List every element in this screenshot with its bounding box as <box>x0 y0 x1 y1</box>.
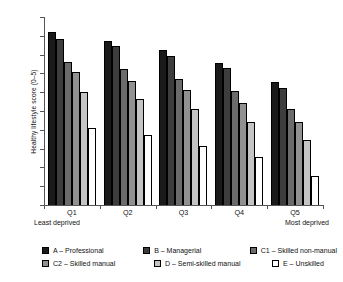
bar <box>80 92 88 205</box>
legend-swatch-icon <box>42 260 49 267</box>
bar <box>112 46 120 205</box>
bar <box>279 88 287 206</box>
legend-swatch-icon <box>272 260 279 267</box>
bar <box>175 79 183 205</box>
bar <box>295 122 303 205</box>
bar <box>271 82 279 205</box>
bar <box>183 90 191 205</box>
bar <box>136 99 144 205</box>
legend-label: B – Managerial <box>154 247 201 254</box>
legend-label: C1 – Skilled non-manual <box>261 247 337 254</box>
bar <box>223 68 231 205</box>
bar <box>239 103 247 205</box>
bar-groups <box>44 17 323 205</box>
legend-row: C2 – Skilled manualD – Semi-skilled manu… <box>42 257 337 270</box>
bar <box>247 122 255 205</box>
bar <box>56 39 64 205</box>
legend-swatch-icon <box>154 260 161 267</box>
legend-item[interactable]: B – Managerial <box>143 247 250 254</box>
bar <box>255 157 263 205</box>
legend-item[interactable]: C1 – Skilled non-manual <box>250 247 337 254</box>
bar <box>48 32 56 205</box>
bar <box>167 56 175 205</box>
healthy-lifestyle-bar-chart: Healthy lifestyle score (0–5) 3.02.92.82… <box>0 0 343 282</box>
legend-swatch-icon <box>250 247 257 254</box>
bar <box>191 109 199 205</box>
bar <box>199 146 207 205</box>
y-axis-title: Healthy lifestyle score (0–5) <box>30 27 37 197</box>
bar <box>311 176 319 205</box>
bar-group <box>156 17 212 205</box>
least-deprived-label: Least deprived <box>34 219 80 226</box>
bar <box>120 69 128 205</box>
x-axis-end-annotations: Least deprived Most deprived <box>44 219 323 231</box>
bar <box>231 91 239 205</box>
legend-label: E – Unskilled <box>283 260 324 267</box>
bar <box>128 81 136 205</box>
bar <box>72 72 80 205</box>
legend-label: D – Semi-skilled manual <box>165 260 240 267</box>
legend-item[interactable]: C2 – Skilled manual <box>42 260 154 267</box>
bar-group <box>44 17 100 205</box>
bar-group <box>100 17 156 205</box>
bar <box>215 63 223 205</box>
bar <box>159 50 167 205</box>
x-axis-line <box>44 205 323 206</box>
bar <box>104 41 112 206</box>
bar <box>144 135 152 205</box>
x-axis-tick <box>323 205 324 209</box>
legend-swatch-icon <box>42 247 49 254</box>
bar <box>88 128 96 205</box>
bar <box>303 140 311 205</box>
legend-label: C2 – Skilled manual <box>53 260 115 267</box>
most-deprived-label: Most deprived <box>285 219 329 226</box>
legend-row: A – ProfessionalB – ManagerialC1 – Skill… <box>42 244 337 257</box>
plot-area: 3.02.92.82.72.62.52.42.32.22.12.0 <box>44 17 323 205</box>
bar <box>287 109 295 205</box>
bar <box>64 62 72 205</box>
bar-group <box>267 17 323 205</box>
legend-item[interactable]: A – Professional <box>42 247 143 254</box>
legend-item[interactable]: E – Unskilled <box>272 260 324 267</box>
bar-group <box>211 17 267 205</box>
legend-swatch-icon <box>143 247 150 254</box>
legend-label: A – Professional <box>53 247 104 254</box>
chart-legend: A – ProfessionalB – ManagerialC1 – Skill… <box>42 244 337 270</box>
legend-item[interactable]: D – Semi-skilled manual <box>154 260 272 267</box>
